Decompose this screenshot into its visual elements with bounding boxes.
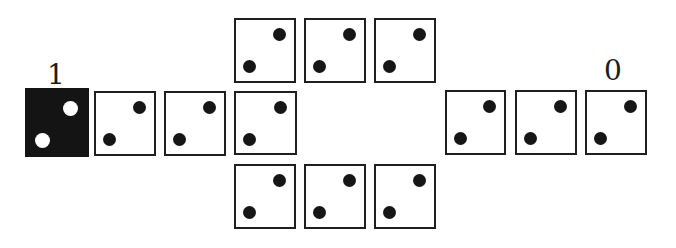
pip-bottom-left-icon bbox=[313, 60, 326, 73]
pip-bottom-left-icon bbox=[103, 133, 116, 146]
output-cell-2 bbox=[515, 90, 577, 155]
pip-bottom-left-icon bbox=[524, 132, 537, 145]
pip-bottom-left-icon bbox=[243, 133, 256, 146]
pip-top-right-icon bbox=[483, 100, 496, 113]
pip-top-right-icon bbox=[343, 174, 356, 187]
input-cell bbox=[25, 88, 89, 157]
pip-bottom-left-icon bbox=[313, 206, 326, 219]
pip-top-right-icon bbox=[273, 28, 286, 41]
pip-top-right-icon bbox=[63, 101, 78, 116]
pip-top-right-icon bbox=[343, 28, 356, 41]
pip-top-right-icon bbox=[624, 100, 637, 113]
output-cell-1 bbox=[445, 90, 506, 155]
bottom-cell-2 bbox=[304, 164, 366, 229]
pip-bottom-left-icon bbox=[243, 206, 256, 219]
pip-bottom-left-icon bbox=[173, 133, 186, 146]
pip-bottom-left-icon bbox=[383, 206, 396, 219]
pip-top-right-icon bbox=[554, 100, 567, 113]
middle-cell-2 bbox=[164, 91, 226, 156]
top-cell-3 bbox=[374, 18, 436, 83]
output-cell-3 bbox=[585, 90, 647, 155]
pip-bottom-left-icon bbox=[243, 60, 256, 73]
top-cell-1 bbox=[234, 18, 296, 83]
pip-top-right-icon bbox=[203, 101, 216, 114]
pip-top-right-icon bbox=[273, 174, 286, 187]
pip-top-right-icon bbox=[413, 28, 426, 41]
branch-cell bbox=[234, 91, 297, 155]
pip-top-right-icon bbox=[413, 174, 426, 187]
pip-top-right-icon bbox=[274, 101, 287, 114]
top-cell-2 bbox=[304, 18, 366, 83]
domino-chain-diagram: 1 0 bbox=[0, 0, 676, 248]
pip-top-right-icon bbox=[133, 101, 146, 114]
pip-bottom-left-icon bbox=[594, 132, 607, 145]
input-state-label: 1 bbox=[43, 61, 69, 89]
pip-bottom-left-icon bbox=[383, 60, 396, 73]
middle-cell-1 bbox=[94, 91, 156, 156]
bottom-cell-3 bbox=[374, 164, 436, 229]
pip-bottom-left-icon bbox=[454, 132, 467, 145]
bottom-cell-1 bbox=[234, 164, 296, 229]
pip-bottom-left-icon bbox=[35, 133, 50, 148]
output-state-label: 0 bbox=[600, 57, 626, 85]
